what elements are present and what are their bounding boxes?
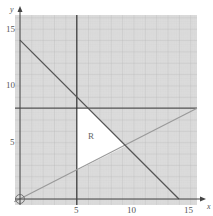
x-tick-10: 10 — [127, 205, 137, 215]
y-tick-10: 10 — [6, 80, 16, 90]
region-r-label: R — [88, 131, 94, 141]
graph: 5 10 15 5 10 15 x y R — [0, 0, 213, 216]
y-axis-arrow-icon — [18, 6, 23, 12]
y-axis-label: y — [9, 5, 14, 14]
x-tick-5: 5 — [74, 205, 79, 215]
x-tick-15: 15 — [184, 205, 194, 215]
grid — [15, 15, 197, 205]
y-tick-5: 5 — [10, 137, 15, 147]
y-tick-15: 15 — [6, 24, 16, 34]
x-axis-arrow-icon — [200, 197, 206, 202]
x-axis-label: x — [206, 202, 211, 211]
